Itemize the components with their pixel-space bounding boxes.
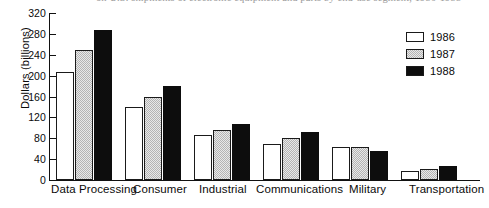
legend-item: 1987 — [406, 47, 482, 62]
legend-item: 1988 — [406, 64, 482, 79]
x-axis-label: Transportation — [409, 183, 484, 195]
legend-label-1986: 1986 — [430, 30, 455, 44]
legend-swatch-1986 — [406, 32, 424, 42]
y-tick-label: 80 — [20, 133, 46, 143]
chart-title-clipped: on U.S. shipments of electronic equipmen… — [0, 0, 489, 7]
bar-1987 — [213, 130, 231, 180]
bar-1988 — [232, 124, 250, 180]
bar-chart-figure: on U.S. shipments of electronic equipmen… — [0, 0, 489, 208]
bar-1986 — [263, 144, 281, 180]
legend-swatch-1987 — [406, 49, 424, 59]
bar-1986 — [332, 147, 350, 180]
y-tick-label: 0 — [20, 175, 46, 185]
bar-1987 — [75, 50, 93, 180]
x-axis-label: Data Processing — [51, 183, 137, 195]
bar-1987 — [351, 147, 369, 180]
y-axis-tick-labels: 32028024020016012080400 — [16, 0, 46, 208]
bar-group — [331, 13, 389, 180]
legend-item: 1986 — [406, 30, 482, 45]
bar-group — [193, 13, 251, 180]
bar-group — [124, 13, 182, 180]
bar-1986 — [401, 171, 419, 180]
bar-1988 — [94, 30, 112, 180]
legend-label-1987: 1987 — [430, 47, 455, 61]
bar-1988 — [439, 166, 457, 180]
bar-1987 — [420, 169, 438, 180]
bar-group — [55, 13, 113, 180]
y-tick-label: 240 — [20, 50, 46, 60]
bar-1987 — [282, 138, 300, 180]
chart-title-text: on U.S. shipments of electronic equipmen… — [96, 0, 461, 3]
x-axis-label: Industrial — [199, 183, 247, 195]
x-axis-line — [49, 180, 480, 181]
bar-1987 — [144, 97, 162, 180]
y-tick-label: 160 — [20, 92, 46, 102]
x-axis-label: Consumer — [133, 183, 187, 195]
y-tick-label: 120 — [20, 112, 46, 122]
bar-1986 — [125, 107, 143, 180]
bar-1986 — [194, 135, 212, 180]
legend-label-1988: 1988 — [430, 64, 455, 78]
legend-swatch-1988 — [406, 66, 424, 76]
bar-group — [262, 13, 320, 180]
x-axis-label: Communications — [256, 183, 343, 195]
x-axis-category-labels: Data ProcessingConsumerIndustrialCommuni… — [49, 183, 489, 201]
bar-1986 — [56, 72, 74, 180]
y-tick-label: 40 — [20, 154, 46, 164]
bar-1988 — [370, 151, 388, 180]
chart-legend: 198619871988 — [406, 30, 482, 81]
y-tick-label: 320 — [20, 8, 46, 18]
x-axis-label: Military — [349, 183, 386, 195]
bar-1988 — [301, 132, 319, 180]
y-tick-label: 280 — [20, 29, 46, 39]
y-tick-label: 200 — [20, 71, 46, 81]
bar-1988 — [163, 86, 181, 180]
